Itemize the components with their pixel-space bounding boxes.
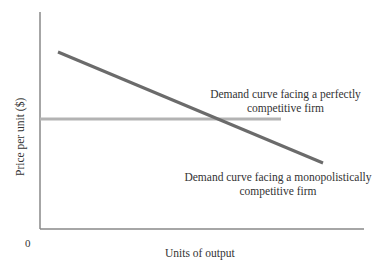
perfect-label-line1: Demand curve facing a perfectly [198,87,373,101]
y-axis-label: Price per unit ($) [14,98,26,176]
perfect-competition-label: Demand curve facing a perfectly competit… [198,87,373,115]
perfect-label-line2: competitive firm [198,101,373,115]
monopolistic-label-line2: competitive firm [178,184,378,198]
monopolistic-competition-label: Demand curve facing a monopolistically c… [178,170,378,198]
origin-label: 0 [25,237,31,249]
monopolistic-label-line1: Demand curve facing a monopolistically [178,170,378,184]
x-axis-label: Units of output [165,247,235,259]
diagram-canvas [0,0,378,276]
